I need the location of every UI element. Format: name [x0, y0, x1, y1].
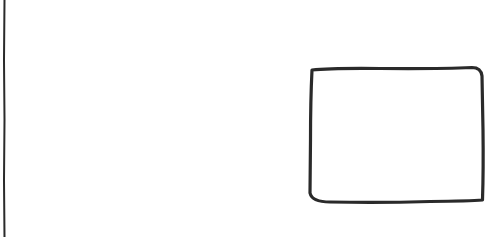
sketch-canvas — [0, 0, 503, 237]
hand-drawn-rectangle — [310, 68, 483, 203]
left-vertical-line — [4, 0, 5, 237]
